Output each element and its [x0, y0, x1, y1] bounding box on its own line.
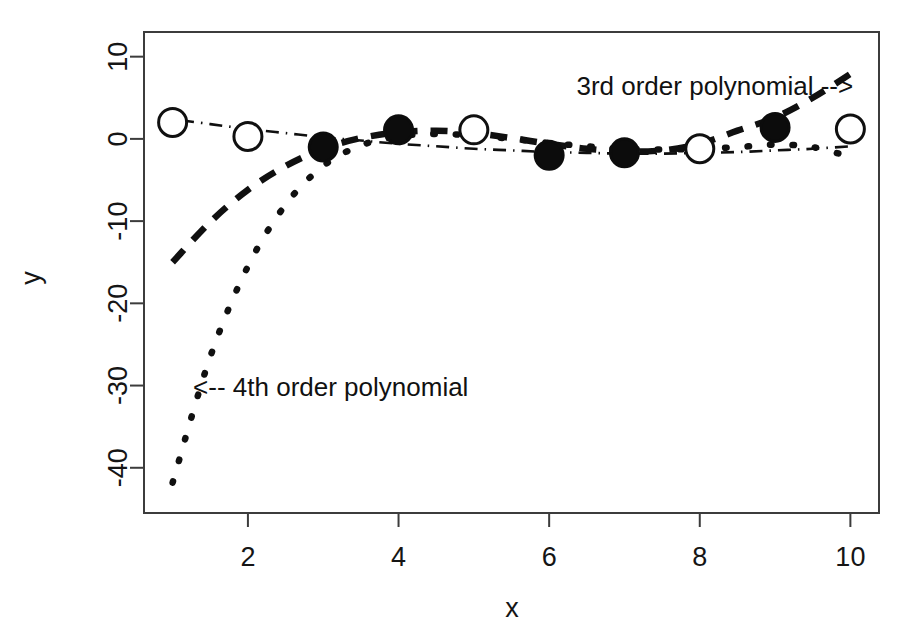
data-point-filled: [385, 116, 413, 144]
data-point-open: [836, 115, 864, 143]
data-point-filled: [535, 141, 563, 169]
x-axis-title: x: [505, 593, 519, 623]
x-tick-label: 10: [835, 542, 865, 572]
annotation-4th-order: <-- 4th order polynomial: [193, 372, 468, 402]
data-point-filled: [761, 113, 789, 141]
data-point-open: [460, 116, 488, 144]
x-tick-label: 4: [391, 542, 406, 572]
polynomial-fit-plot: 100-10-20-30-40 246810 3rd order polynom…: [0, 0, 922, 641]
y-tick-label: -20: [103, 284, 133, 323]
x-tick-label: 2: [240, 542, 255, 572]
y-tick-label: 0: [103, 131, 133, 146]
x-tick-label: 8: [692, 542, 707, 572]
annotation-3rd-order: 3rd order polynomial -->: [576, 71, 853, 101]
data-point-filled: [610, 139, 638, 167]
data-point-open: [234, 122, 262, 150]
data-point-open: [686, 135, 714, 163]
y-tick-label: -40: [103, 448, 133, 487]
chart-figure: 100-10-20-30-40 246810 3rd order polynom…: [0, 0, 922, 641]
y-tick-label: -10: [103, 202, 133, 241]
y-axis-title: y: [16, 271, 46, 285]
y-tick-label: -30: [103, 366, 133, 405]
y-tick-label: 10: [103, 42, 133, 72]
data-point-open: [159, 108, 187, 136]
data-point-filled: [309, 133, 337, 161]
x-tick-label: 6: [542, 542, 557, 572]
